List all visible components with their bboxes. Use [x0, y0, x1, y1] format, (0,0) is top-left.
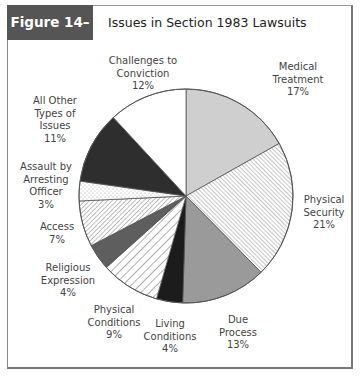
slice-label-all-other-types-of-issues: All OtherTypes ofIssues11% — [33, 95, 77, 145]
label-line: Types of — [33, 108, 77, 121]
label-line: Assault by — [20, 161, 72, 174]
slice-label-religious-expression: ReligiousExpression4% — [41, 262, 95, 300]
slice-label-challenges-to-conviction: Challenges toConviction12% — [109, 55, 177, 93]
slice-label-access: Access7% — [40, 221, 74, 246]
label-line: Religious — [41, 262, 95, 275]
label-line: Medical — [273, 61, 324, 74]
label-line: Officer — [20, 186, 72, 199]
label-line: Challenges to — [109, 55, 177, 68]
label-line: 13% — [219, 339, 257, 352]
slice-label-medical-treatment: MedicalTreatment17% — [273, 61, 324, 99]
label-line: 4% — [41, 287, 95, 300]
label-line: Living — [144, 318, 197, 331]
label-line: Physical — [88, 304, 141, 317]
label-line: 11% — [33, 133, 77, 146]
label-line: Physical — [303, 194, 344, 207]
label-line: Conviction — [109, 68, 177, 81]
label-line: Process — [219, 327, 257, 340]
slice-label-due-process: DueProcess13% — [219, 314, 257, 352]
label-line: All Other — [33, 95, 77, 108]
label-line: Issues — [33, 120, 77, 133]
label-line: 7% — [40, 234, 74, 247]
label-line: Arresting — [20, 174, 72, 187]
label-line: Conditions — [88, 317, 141, 330]
label-line: Treatment — [273, 74, 324, 87]
label-line: 17% — [273, 86, 324, 99]
label-line: Expression — [41, 275, 95, 288]
label-line: Security — [303, 207, 344, 220]
label-line: 4% — [144, 343, 197, 356]
label-line: Conditions — [144, 331, 197, 344]
label-line: Access — [40, 221, 74, 234]
label-line: 21% — [303, 219, 344, 232]
label-line: Due — [219, 314, 257, 327]
label-line: 12% — [109, 80, 177, 93]
label-line: 9% — [88, 329, 141, 342]
slice-label-physical-conditions: PhysicalConditions9% — [88, 304, 141, 342]
slice-label-physical-security: PhysicalSecurity21% — [303, 194, 344, 232]
slice-label-living-conditions: LivingConditions4% — [144, 318, 197, 356]
caption-cutoff — [8, 374, 353, 380]
label-line: 3% — [20, 199, 72, 212]
slice-label-assault-by-arresting-officer: Assault byArrestingOfficer3% — [20, 161, 72, 211]
